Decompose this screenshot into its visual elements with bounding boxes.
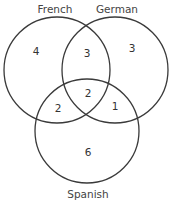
spanish-label: Spanish — [67, 188, 108, 200]
spanish-only-count: 6 — [85, 146, 92, 158]
german-only-count: 3 — [129, 42, 136, 54]
german-spanish-count: 1 — [112, 100, 119, 112]
all-three-count: 2 — [85, 87, 92, 99]
french-german-count: 3 — [84, 47, 91, 59]
french-label: French — [38, 3, 73, 15]
french-spanish-count: 2 — [55, 102, 62, 114]
french-only-count: 4 — [33, 45, 40, 57]
venn-diagram: French German Spanish 4 3 3 2 2 1 6 — [0, 0, 170, 205]
german-label: German — [96, 3, 138, 15]
